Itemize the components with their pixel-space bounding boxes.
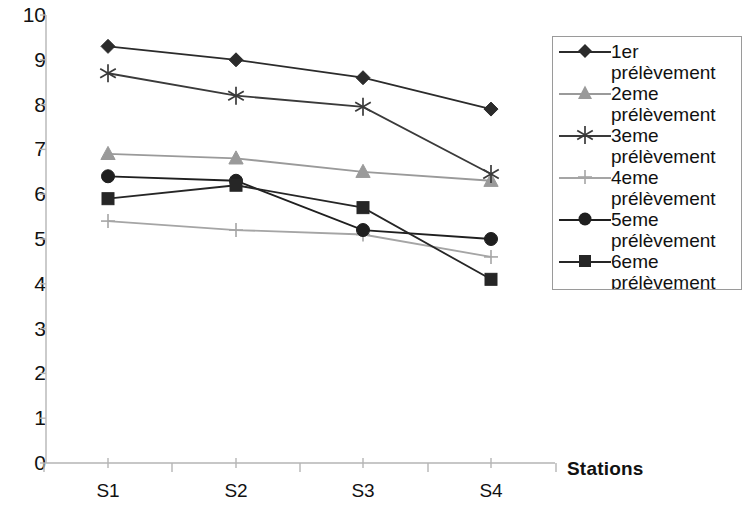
- legend-item[interactable]: 4eme prélèvement: [553, 167, 741, 209]
- series-line: [108, 154, 491, 181]
- legend-label: 3eme prélèvement: [611, 125, 735, 167]
- legend-marker-plus-icon: [559, 167, 611, 188]
- series-marker: [229, 53, 243, 67]
- legend-marker-triangle-icon: [559, 83, 611, 104]
- legend-item[interactable]: 1er prélèvement: [553, 41, 741, 83]
- series-marker: [485, 233, 498, 246]
- x-axis-title: Stations: [567, 458, 644, 480]
- series-line: [108, 221, 491, 257]
- series-marker: [484, 102, 498, 116]
- legend-key-marker: [572, 122, 598, 148]
- legend-key-marker: [572, 248, 598, 274]
- series-marker: [357, 224, 370, 237]
- legend-label: 1er prélèvement: [611, 41, 735, 83]
- legend-key-marker: [572, 206, 598, 232]
- series-marker: [101, 146, 115, 159]
- series-marker: [101, 39, 115, 53]
- legend-item[interactable]: 6eme prélèvement: [553, 251, 741, 290]
- series-marker: [356, 71, 370, 85]
- series-marker: [357, 202, 369, 214]
- legend-label: 4eme prélèvement: [611, 167, 735, 209]
- legend-key-marker: [572, 38, 598, 64]
- series-line: [108, 176, 491, 239]
- x-tick-label: S1: [78, 481, 138, 500]
- legend-marker-square-icon: [559, 251, 611, 272]
- series-line: [108, 73, 491, 174]
- legend-key-marker: [572, 164, 598, 190]
- legend-label: 2eme prélèvement: [611, 83, 735, 125]
- legend-key-marker: [572, 80, 598, 106]
- series-marker: [230, 179, 242, 191]
- legend-marker-circle-icon: [559, 209, 611, 230]
- legend-label: 6eme prélèvement: [611, 251, 735, 290]
- series-marker: [485, 273, 497, 285]
- x-tick-label: S3: [333, 481, 393, 500]
- legend-item[interactable]: 3eme prélèvement: [553, 125, 741, 167]
- x-tick-label: S2: [206, 481, 266, 500]
- legend-label: 5eme prélèvement: [611, 209, 735, 251]
- series-marker: [102, 170, 115, 183]
- legend-marker-diamond-icon: [559, 41, 611, 62]
- chart-legend: 1er prélèvement2eme prélèvement3eme prél…: [552, 36, 742, 290]
- x-tick-label: S4: [461, 481, 521, 500]
- series-line: [108, 46, 491, 109]
- legend-item[interactable]: 2eme prélèvement: [553, 83, 741, 125]
- legend-marker-asterisk-icon: [559, 125, 611, 146]
- series-marker: [102, 193, 114, 205]
- legend-item[interactable]: 5eme prélèvement: [553, 209, 741, 251]
- line-chart: 012345678910 S1S2S3S4 Stations 1er prélè…: [0, 0, 745, 512]
